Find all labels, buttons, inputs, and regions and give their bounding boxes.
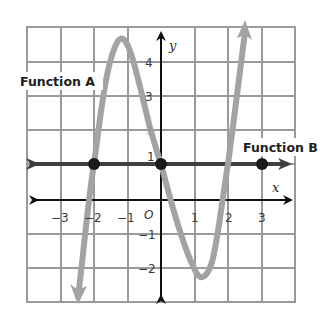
y-tick-neg1: −1 (138, 228, 156, 242)
y-axis-label: y (168, 38, 177, 53)
y-tick-1: 1 (147, 150, 155, 164)
point-0-1 (155, 158, 167, 170)
point-3-1 (256, 158, 268, 170)
point-neg2-1 (88, 158, 100, 170)
y-tick-3: 3 (145, 90, 153, 104)
x-axis-label: x (272, 180, 280, 195)
x-tick-neg2: −2 (84, 211, 102, 225)
x-tick-2: 2 (225, 211, 233, 225)
function-graph: −3 −2 −1 O 1 2 3 4 3 2 1 −1 −2 y x Funct… (0, 0, 333, 317)
x-tick-neg1: −1 (117, 211, 135, 225)
function-a-label: Function A (20, 74, 95, 89)
y-tick-2: 2 (145, 124, 153, 138)
origin-label: O (144, 208, 153, 222)
x-tick-neg3: −3 (51, 211, 69, 225)
function-b-label: Function B (243, 140, 318, 155)
y-tick-4: 4 (145, 56, 153, 70)
y-tick-neg2: −2 (138, 262, 156, 276)
x-tick-3: 3 (258, 211, 266, 225)
x-tick-1: 1 (191, 211, 199, 225)
